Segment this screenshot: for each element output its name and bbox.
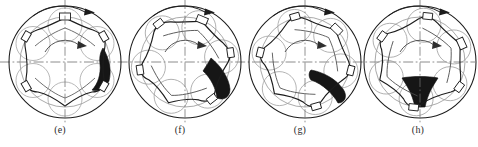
rotor-hub-arc-lower [144,66,207,107]
vane-tip-lower-left [256,47,265,58]
vane-tip-lower-left [136,65,144,75]
vane-tip-top [196,15,209,26]
vane-tip-upper-left [153,18,164,29]
panel-g-drawing [240,0,360,124]
panel-f: (f) [120,0,240,147]
vane-tip-lower-right [311,102,322,111]
panel-f-drawing [120,0,240,124]
vane-tip-top [456,37,467,50]
pitch-circle [20,17,110,107]
vane-tip-upper-left [289,12,300,21]
vane-tip-upper-right [346,65,355,76]
vane-tip-upper-right [227,48,235,58]
vane-tip-upper-left [21,31,31,42]
panel-h-drawing [358,0,475,124]
panel-caption-e: (e) [0,124,120,135]
panel-caption-g: (g) [240,124,360,135]
panel-caption-h: (h) [358,124,478,135]
chamber-fill [203,58,230,99]
vane-tip-upper-left [423,12,433,19]
vane-tip-upper-right [99,31,109,42]
vane-tip-upper-right [454,81,465,93]
panel-caption-f: (f) [120,124,240,135]
panel-h: (h) [358,0,478,147]
panel-e-drawing [0,0,120,124]
vane-tip-top [330,23,343,36]
panel-e: (e) [0,0,120,147]
inner-rotation-arrow [165,40,207,52]
vane-tip-lower-right [409,104,419,111]
vane-tips [253,0,371,114]
panel-g: (g) [240,0,360,147]
chamber-fill [309,70,345,103]
inner-rotation-arrow [285,40,327,52]
rotor-hub-arc [163,19,225,58]
